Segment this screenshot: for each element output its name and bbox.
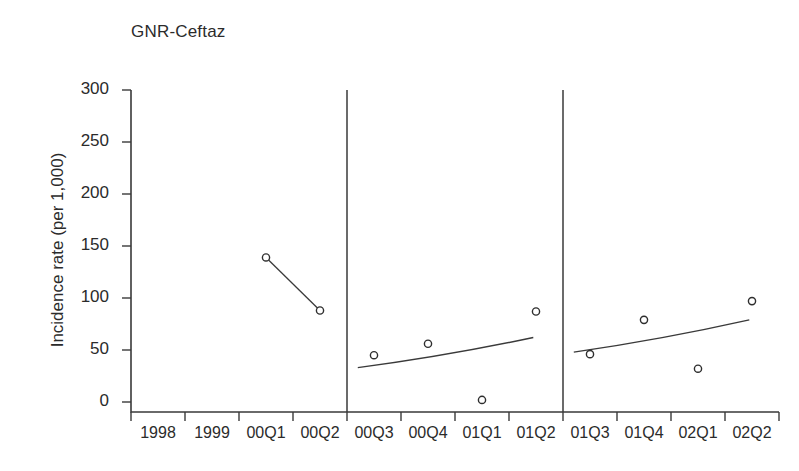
data-point-marker [262,254,269,261]
data-point-marker [640,316,647,323]
segment-2-trend-line [358,338,534,368]
data-point-marker [694,365,701,372]
segment-3-trend-line [574,320,750,352]
segment-1-connector-line [266,257,320,310]
data-series-group [262,254,755,404]
chart-figure: GNR-Ceftaz Incidence rate (per 1,000) 05… [0,0,799,471]
plot-area [0,0,799,471]
data-point-marker [478,396,485,403]
data-point-marker [424,340,431,347]
data-point-marker [748,298,755,305]
data-point-marker [586,351,593,358]
axes-group [122,90,779,421]
data-point-marker [316,307,323,314]
data-point-marker [370,352,377,359]
period-dividers-group [347,90,563,412]
data-point-marker [532,308,539,315]
axis-lines [131,90,779,412]
